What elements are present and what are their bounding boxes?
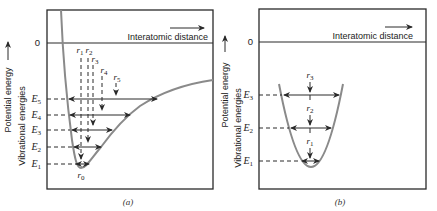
panel-b-label-r3: r3 (306, 70, 314, 82)
panel-b-y-axis-label-1: Potential energy (220, 62, 230, 128)
panel-b-level-e3: E3 (242, 89, 253, 102)
panel-b-level-e2: E2 (242, 122, 253, 135)
panel-a-level-e4: E4 (30, 109, 41, 122)
panel-a-label-r5: r5 (113, 72, 121, 84)
panel-a-y-axis-label-2: Vibrational energies (17, 86, 27, 166)
panel-b-zero-label: 0 (248, 36, 253, 47)
panel-a-level-e5: E5 (30, 93, 41, 106)
panel-a-label-r0: r0 (77, 170, 85, 182)
panel-a-x-axis-label: Interatomic distance (127, 32, 208, 42)
panel-a-level-e2: E2 (30, 141, 41, 154)
panel-a-caption: (a) (123, 197, 134, 207)
potential-energy-diagram: 0 Interatomic distance Potential energy … (0, 0, 437, 211)
panel-a-level-e3: E3 (30, 124, 41, 137)
panel-b: 0 Interatomic distance Potential energy … (220, 9, 426, 207)
panel-a-y-axis-label-1: Potential energy (3, 67, 13, 133)
panel-b-label-r1: r1 (306, 136, 314, 148)
panel-a-label-r4: r4 (100, 65, 108, 77)
panel-a-label-r1: r1 (76, 45, 84, 57)
panel-a: 0 Interatomic distance Potential energy … (3, 10, 213, 207)
panel-a-level-e1: E1 (30, 158, 41, 171)
panel-b-caption: (b) (335, 197, 346, 207)
panel-a-zero-label: 0 (35, 37, 40, 48)
panel-a-label-r3: r3 (91, 54, 99, 66)
panel-b-harmonic-curve (279, 84, 343, 167)
panel-b-label-r2: r2 (306, 103, 314, 115)
panel-b-x-axis-label: Interatomic distance (332, 31, 413, 41)
panel-b-level-e1: E1 (242, 155, 253, 168)
panel-b-y-axis-label-2: Vibrational energies (233, 88, 243, 168)
